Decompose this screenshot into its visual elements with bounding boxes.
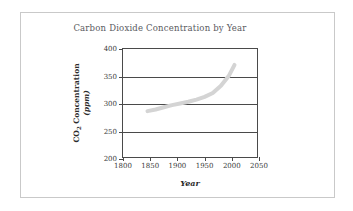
x-axis-title: Year <box>122 178 258 188</box>
xtick-2050 <box>259 157 260 161</box>
chart-title: Carbon Dioxide Concentration by Year <box>30 23 290 33</box>
gridline-350 <box>123 77 257 78</box>
xtick-label-2050: 2050 <box>250 162 268 170</box>
y-axis-title-line1: CO2 Concentration <box>72 63 82 142</box>
y-axis-title: CO2 Concentration (ppm) <box>70 48 94 158</box>
xtick-label-1800: 1800 <box>114 162 132 170</box>
xtick-label-1950: 1950 <box>196 162 214 170</box>
ytick-label-250: 250 <box>104 128 117 136</box>
xtick-label-1850: 1850 <box>141 162 159 170</box>
y-axis-title-species: CO <box>72 130 81 143</box>
plot-area: 400 350 300 250 200 1800 1850 1900 1950 … <box>122 48 258 158</box>
ytick-label-300: 300 <box>104 100 117 108</box>
xtick-1950 <box>205 157 206 161</box>
ytick-400 <box>119 49 123 50</box>
ytick-label-400: 400 <box>104 45 117 53</box>
xtick-label-1900: 1900 <box>168 162 186 170</box>
ytick-300 <box>119 104 123 105</box>
y-axis-title-subscript: 2 <box>76 126 82 130</box>
gridline-250 <box>123 132 257 133</box>
y-axis-title-units: (ppm) <box>82 90 92 116</box>
xtick-label-2000: 2000 <box>223 162 241 170</box>
xtick-2000 <box>232 157 233 161</box>
y-axis-title-rest: Concentration <box>72 63 81 126</box>
ytick-label-350: 350 <box>104 73 117 81</box>
gridline-300 <box>123 104 257 105</box>
figure-canvas: Carbon Dioxide Concentration by Year 400… <box>0 0 353 211</box>
ytick-250 <box>119 132 123 133</box>
xtick-1900 <box>177 157 178 161</box>
ytick-350 <box>119 77 123 78</box>
xtick-1800 <box>123 157 124 161</box>
xtick-1850 <box>150 157 151 161</box>
